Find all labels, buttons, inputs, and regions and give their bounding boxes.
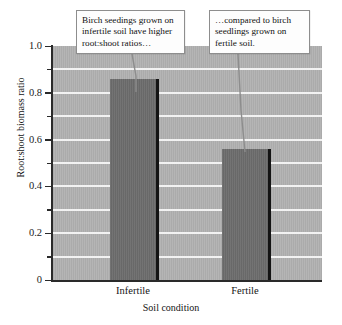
y-axis-title: Root:shoot biomass ratio xyxy=(15,58,26,198)
y-tick-label-0-2: 0.2 xyxy=(0,228,42,239)
callout-fertile[interactable]: …compared to birch seedlings grown on fe… xyxy=(209,10,310,54)
y-tick-label-0: 0 xyxy=(0,275,42,286)
y-minor-tick-0-1 xyxy=(47,256,51,258)
y-tick-0-2 xyxy=(45,233,51,235)
y-tick-0 xyxy=(45,280,51,282)
y-tick-0-8 xyxy=(45,92,51,94)
gridline-0-2 xyxy=(52,232,322,234)
gridline-0-7 xyxy=(52,115,322,117)
y-axis-line xyxy=(51,45,53,281)
gridline-0-1 xyxy=(52,256,322,258)
bar-fertile[interactable] xyxy=(222,149,271,280)
x-axis-line xyxy=(51,280,322,282)
gridline-0-6 xyxy=(52,139,322,141)
y-minor-tick-0-3 xyxy=(47,209,51,211)
y-tick-0-4 xyxy=(45,186,51,188)
bar-chart-figure: 1.0 0.8 0.6 0.4 0.2 0 Root:shoot biomass… xyxy=(0,0,342,325)
x-category-label-infertile: Infertile xyxy=(83,285,183,297)
x-axis-title: Soil condition xyxy=(0,302,342,314)
y-tick-1-0 xyxy=(45,46,51,48)
gridline-0-3 xyxy=(52,209,322,211)
gridline-0-4 xyxy=(52,185,322,187)
bar-infertile[interactable] xyxy=(110,79,159,280)
callout-infertile[interactable]: Birch seedings grown on infertile soil h… xyxy=(76,10,185,54)
gridline-0-8 xyxy=(52,92,322,94)
y-minor-tick-0-9 xyxy=(47,69,51,71)
y-tick-label-1-0: 1.0 xyxy=(0,41,42,52)
y-minor-tick-0-7 xyxy=(47,116,51,118)
plot-area xyxy=(52,46,322,280)
y-tick-0-6 xyxy=(45,139,51,141)
y-minor-tick-0-5 xyxy=(47,163,51,165)
gridline-0-5 xyxy=(52,162,322,164)
x-category-label-fertile: Fertile xyxy=(195,285,295,297)
gridline-0-9 xyxy=(52,68,322,70)
